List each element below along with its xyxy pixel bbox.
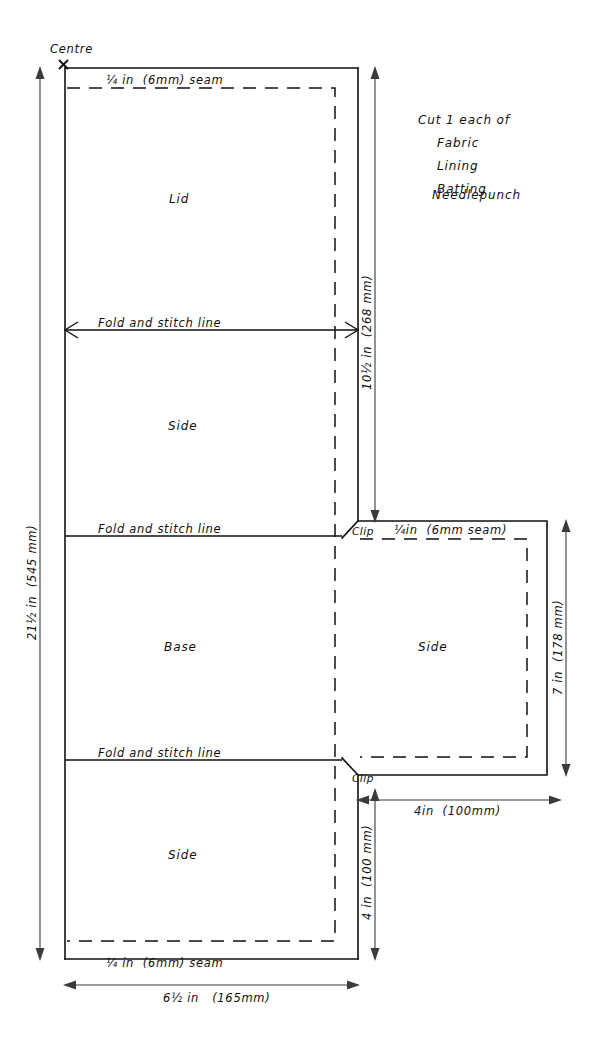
clip-label-lower: Clip xyxy=(352,772,374,784)
arrowhead-overall-width-right xyxy=(347,981,360,990)
panel-label-side-upper: Side xyxy=(168,419,198,433)
arrowhead-right-panel-top xyxy=(562,519,571,532)
dimension-label-overall-width: 6½ in (165mm) xyxy=(163,991,270,1005)
cut-note-heading: Cut 1 each of xyxy=(418,113,511,127)
centre-label: Centre xyxy=(50,42,93,56)
arrowhead-lower-side-top xyxy=(371,788,380,801)
seam-label-right-panel: ¼in (6mm seam) xyxy=(394,523,507,537)
seam-dash-main-strip xyxy=(67,88,335,941)
centre-cross-mark xyxy=(59,60,68,69)
arrowhead-right-panel-bottom xyxy=(562,764,571,777)
fold-label-base-side: Fold and stitch line xyxy=(98,746,221,760)
dimension-label-right-panel-height: 7 in (178 mm) xyxy=(551,599,565,695)
main-strip-seam-allowance xyxy=(67,88,335,941)
arrowhead-overall-width-left xyxy=(63,981,76,990)
fold-label-side-base: Fold and stitch line xyxy=(98,522,221,536)
arrowhead-overall-height-top xyxy=(36,66,45,79)
dimension-overall-width xyxy=(63,981,360,990)
pattern-drawing-canvas: Centre ¼ in (6mm) seam ¼ in (6mm) seam ¼… xyxy=(0,0,599,1055)
dimension-label-lower-side-height: 4 in (100 mm) xyxy=(360,824,374,920)
panel-label-side-lower: Side xyxy=(168,848,198,862)
pattern-diagram: Centre ¼ in (6mm) seam ¼ in (6mm) seam ¼… xyxy=(0,0,599,1055)
right-panel-cut-edges xyxy=(358,521,547,775)
dimension-label-lid-plus-side-height: 10½ in (268 mm) xyxy=(360,275,374,390)
dimension-label-overall-height: 21½ in (545 mm) xyxy=(25,525,39,640)
panel-label-base: Base xyxy=(164,640,197,654)
fold-and-stitch-lines xyxy=(65,322,358,760)
fold-label-lid-side: Fold and stitch line xyxy=(98,316,221,330)
dimension-label-right-panel-width: 4in (100mm) xyxy=(414,804,501,818)
arrowhead-lid-side-top xyxy=(371,66,380,79)
cut-note-material-lining: Lining xyxy=(437,159,479,173)
dimension-right-panel-width xyxy=(356,775,562,805)
seam-label-top: ¼ in (6mm) seam xyxy=(106,73,223,87)
cut-note-material-needlepunch: Needlepunch xyxy=(432,188,521,202)
arrowhead-overall-height-bottom xyxy=(36,948,45,961)
dimension-overall-height xyxy=(36,66,45,961)
clip-label-upper: Clip xyxy=(352,525,374,537)
cut-note-material-fabric: Fabric xyxy=(437,136,479,150)
seam-label-bottom: ¼ in (6mm) seam xyxy=(106,956,223,970)
arrowhead-lower-side-bottom xyxy=(371,948,380,961)
panel-label-lid: Lid xyxy=(169,192,189,206)
panel-label-side-right: Side xyxy=(418,640,448,654)
arrowhead-right-width-right xyxy=(549,796,562,805)
main-strip-outline xyxy=(65,68,358,959)
